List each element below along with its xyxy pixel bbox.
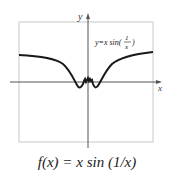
y-axis-label: y [77,11,83,22]
equation-denominator: x [124,43,129,51]
x-axis-label: x [157,83,162,93]
equation-numerator: 1 [125,34,129,42]
equation-close: ) [131,38,135,47]
equation-text: y=x sin( [94,38,123,47]
function-plot: y x y=x sin( 1 x ) [0,0,174,175]
y-axis-arrow-icon [86,13,90,19]
chart-caption: f(x) = x sin (1/x) [0,154,174,171]
equation-label: y=x sin( 1 x ) [94,34,135,51]
